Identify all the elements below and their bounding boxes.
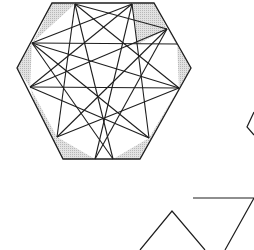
star-line xyxy=(32,43,177,44)
downward-triangle xyxy=(193,198,254,250)
shaded-region xyxy=(167,29,191,88)
partial-shape-right xyxy=(247,112,254,135)
shaded-region xyxy=(113,138,149,159)
triangles xyxy=(140,112,254,250)
star-line xyxy=(57,29,167,137)
upward-triangle xyxy=(140,211,205,250)
shaded-region xyxy=(32,3,75,43)
star-line xyxy=(95,29,167,159)
star-line xyxy=(30,87,179,88)
star-line xyxy=(57,88,179,137)
diagram-canvas xyxy=(0,0,254,250)
star-line xyxy=(32,43,179,88)
star-line xyxy=(32,43,113,159)
shaded-region xyxy=(57,137,95,159)
